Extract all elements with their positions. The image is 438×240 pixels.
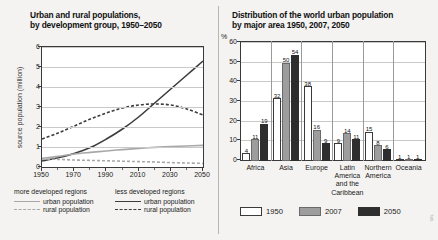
bar-value-label: 6	[385, 144, 388, 150]
category-label-line: Northern	[364, 164, 391, 172]
bar-value-label: 32	[274, 93, 281, 99]
category-label-line: Oceania	[396, 164, 422, 172]
x-tick-label: 2010	[130, 171, 146, 178]
x-tick-mark-minor	[89, 168, 90, 170]
bar-value-label: 50	[283, 57, 290, 63]
line-series-path	[42, 104, 203, 139]
y-tick-mark	[38, 126, 41, 127]
y-tick-label: 20	[229, 116, 237, 123]
legend-item-less-developed-urban: urban population	[115, 198, 195, 205]
bar-chart-title-line2: by major area 1950, 2007, 2050	[232, 20, 432, 30]
line-chart-panel: Urban and rural populations, by developm…	[0, 0, 218, 240]
category-label-line: America	[331, 172, 363, 180]
group-separator	[301, 41, 302, 161]
bar-value-label: 9	[324, 138, 327, 144]
category-label-line: Caribbean	[331, 189, 363, 197]
x-tick-label: 2050	[194, 171, 210, 178]
x-tick-mark-minor	[57, 168, 58, 170]
line-swatch-solid-dark-icon	[115, 201, 141, 202]
page-root: Urban and rural populations, by developm…	[0, 0, 438, 240]
gridline	[42, 127, 203, 128]
legend-label-1950: 1950	[266, 207, 283, 216]
bar-2007[interactable]: 1	[405, 159, 413, 161]
bar-2007[interactable]: 11	[251, 139, 259, 161]
line-swatch-solid-grey-icon	[14, 201, 40, 202]
legend-group-less-developed-title: less developed regions	[115, 188, 195, 195]
legend-item-2050: 2050	[358, 207, 401, 216]
bar-group: 91411	[332, 41, 363, 161]
bar-2050[interactable]: 11	[352, 139, 360, 161]
group-separator	[271, 41, 272, 161]
line-chart-y-axis-label: source population (million)	[16, 48, 23, 168]
category-label: NorthernAmerica	[364, 164, 391, 180]
bar-group: 111	[393, 41, 424, 161]
y-tick-mark	[38, 166, 41, 167]
line-chart-title-line1: Urban and rural populations,	[30, 10, 205, 20]
bar-value-label: 1	[407, 154, 410, 160]
line-chart-title-line2: by development group, 1950–2050	[30, 20, 205, 30]
legend-item-less-developed-urban-label: urban population	[144, 198, 195, 205]
bar-value-label: 54	[292, 49, 299, 55]
category-label: Europe	[305, 164, 328, 172]
legend-item-more-developed-rural: rural population	[14, 206, 94, 213]
legend-item-less-developed-rural-label: rural population	[144, 206, 191, 213]
y-tick-label: 30	[229, 97, 237, 104]
bar-group: 38169	[301, 41, 332, 161]
bar-chart-legend: 195020072050	[240, 207, 417, 216]
bar-value-label: 16	[313, 124, 320, 130]
bar-2050[interactable]: 6	[383, 149, 391, 161]
category-label: Oceania	[396, 164, 422, 172]
bar-2007[interactable]: 14	[343, 133, 351, 161]
x-tick-label: 2030	[162, 171, 178, 178]
bar-2050[interactable]: 1	[414, 159, 422, 161]
legend-swatch-2007-icon	[299, 207, 321, 216]
legend-item-more-developed-urban-label: urban population	[43, 198, 94, 205]
bar-2050[interactable]: 54	[291, 55, 299, 161]
x-tick-label: 1990	[98, 171, 114, 178]
bar-1950[interactable]: 32	[273, 98, 281, 161]
bar-1950[interactable]: 9	[334, 143, 342, 161]
bar-1950[interactable]: 4	[242, 153, 250, 161]
line-series-path	[42, 159, 203, 163]
bar-1950[interactable]: 38	[304, 86, 312, 161]
bar-2007[interactable]: 8	[374, 145, 382, 161]
bar-chart-y-ticks: 0102030405060	[220, 37, 237, 165]
category-label-line: Africa	[246, 164, 264, 172]
bar-2050[interactable]: 19	[260, 124, 268, 161]
category-label-line: Europe	[305, 164, 328, 172]
legend-label-2050: 2050	[384, 207, 401, 216]
line-chart-title: Urban and rural populations, by developm…	[30, 10, 205, 31]
bar-value-label: 4	[245, 148, 248, 154]
bar-value-label: 1	[416, 154, 419, 160]
y-tick-label: 60	[229, 38, 237, 45]
legend-label-2007: 2007	[325, 207, 342, 216]
bar-1950[interactable]: 15	[365, 132, 373, 162]
y-tick-mark	[38, 66, 41, 67]
legend-swatch-1950-icon	[240, 207, 262, 216]
bar-chart-title: Distribution of the world urban populati…	[232, 10, 432, 31]
bar-group: 325054	[271, 41, 302, 161]
category-label: LatinAmericaand theCaribbean	[331, 164, 363, 197]
y-tick-label: 40	[229, 77, 237, 84]
bar-value-label: 11	[252, 134, 258, 140]
bar-chart-bars-layer: 4111932505438169914111586111	[240, 41, 426, 161]
category-label-line: Latin	[331, 164, 363, 172]
y-tick-label: 50	[229, 57, 237, 64]
line-swatch-dashed-grey-icon	[14, 209, 40, 210]
category-label-line: and the	[331, 180, 363, 188]
legend-item-more-developed-urban: urban population	[14, 198, 94, 205]
bar-1950[interactable]: 1	[396, 159, 404, 161]
x-tick-mark-minor	[186, 168, 187, 170]
line-chart-plot-area	[41, 46, 204, 168]
bar-2007[interactable]: 50	[282, 63, 290, 161]
y-tick-mark	[38, 46, 41, 47]
watermark: 785	[429, 214, 434, 222]
bar-2007[interactable]: 16	[313, 130, 321, 161]
line-swatch-dashed-dark-icon	[115, 209, 141, 210]
legend-item-2007: 2007	[299, 207, 342, 216]
group-separator	[363, 41, 364, 161]
category-label: Africa	[246, 164, 264, 172]
legend-group-less-developed: less developed regions urban population …	[115, 188, 195, 213]
legend-item-1950: 1950	[240, 207, 283, 216]
bar-2050[interactable]: 9	[322, 143, 330, 161]
